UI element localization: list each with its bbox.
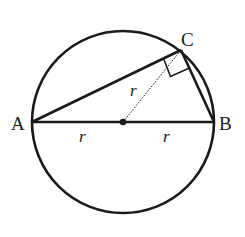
label-point-a: A	[11, 113, 25, 134]
label-point-b: B	[219, 113, 232, 134]
label-radius-oc: r	[130, 81, 137, 100]
center-point	[120, 119, 127, 126]
label-radius-ob: r	[163, 127, 170, 146]
segment-cb	[181, 50, 214, 122]
diagram-canvas: A B C r r r	[0, 0, 245, 237]
circle-diagram: A B C r r r	[0, 0, 245, 237]
label-point-c: C	[181, 29, 194, 50]
label-radius-ao: r	[79, 127, 86, 146]
